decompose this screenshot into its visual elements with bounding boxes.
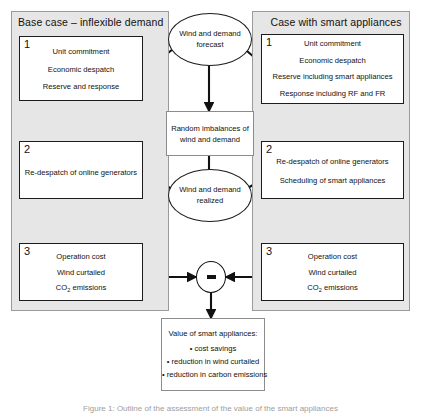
panel-smart-appliances-title: Case with smart appliances <box>261 16 411 28</box>
result-box-bullet-1: • cost savings <box>162 342 264 355</box>
right-step-1-line-2: Economic despatch <box>262 55 403 68</box>
right-step-2-line-1: Re-despatch of online generators <box>262 156 403 169</box>
left-step-2-number: 2 <box>24 143 30 155</box>
minus-operator-node <box>196 261 226 293</box>
right-step-1-line-1: Unit commitment <box>262 38 403 51</box>
random-imbalances-box: Random imbalances of wind and demand <box>166 111 254 156</box>
realized-ellipse-line-1: Wind and demand <box>179 185 241 196</box>
right-step-3-line-2: Wind curtailed <box>262 267 403 280</box>
figure-diagram: Base case – inflexible demand 1 Unit com… <box>0 0 421 415</box>
result-box: Value of smart appliances: • cost saving… <box>161 318 265 391</box>
panel-base-case-title: Base case – inflexible demand <box>18 16 168 28</box>
right-step-1-line-4: Response including RF and FR <box>262 88 403 101</box>
right-step-2-line-2: Scheduling of smart appliances <box>262 175 403 188</box>
realized-ellipse: Wind and demand realized <box>168 169 252 222</box>
right-step-3-line-3: CO2 emissions <box>262 282 403 295</box>
right-step-2-number: 2 <box>266 143 272 155</box>
result-box-heading: Value of smart appliances: <box>162 327 264 340</box>
left-step-3-line-2: Wind curtailed <box>20 267 142 280</box>
random-imbalances-line-2: wind and demand <box>171 134 249 145</box>
left-step-1-line-2: Economic despatch <box>20 64 142 77</box>
minus-icon <box>207 275 216 279</box>
left-step-3-line-1: Operation cost <box>20 251 142 264</box>
result-box-bullet-2: • reduction in wind curtailed <box>162 355 264 368</box>
result-box-bullet-3: • reduction in carbon emissions <box>162 368 264 381</box>
left-step-3-box: 3 Operation cost Wind curtailed CO2 emis… <box>19 243 143 301</box>
left-step-2-box: 2 Re-despatch of online generators <box>19 141 143 199</box>
left-step-2-line-1: Re-despatch of online generators <box>20 167 142 180</box>
right-step-1-line-3: Reserve including smart appliances <box>262 71 403 84</box>
right-step-3-line-1: Operation cost <box>262 251 403 264</box>
left-step-1-box: 1 Unit commitment Economic despatch Rese… <box>19 36 143 101</box>
left-step-3-line-3: CO2 emissions <box>20 282 142 295</box>
left-step-1-line-3: Reserve and response <box>20 81 142 94</box>
realized-ellipse-line-2: realized <box>179 196 241 207</box>
right-step-2-box: 2 Re-despatch of online generators Sched… <box>261 141 404 199</box>
figure-caption: Figure 1: Outline of the assessment of t… <box>0 404 421 415</box>
right-step-3-box: 3 Operation cost Wind curtailed CO2 emis… <box>261 243 404 301</box>
forecast-ellipse-line-1: Wind and demand <box>179 29 241 40</box>
forecast-ellipse-line-2: forecast <box>179 40 241 51</box>
random-imbalances-line-1: Random imbalances of <box>171 123 249 134</box>
forecast-ellipse: Wind and demand forecast <box>168 13 252 66</box>
left-step-1-line-1: Unit commitment <box>20 46 142 59</box>
right-step-1-box: 1 Unit commitment Economic despatch Rese… <box>261 34 404 104</box>
